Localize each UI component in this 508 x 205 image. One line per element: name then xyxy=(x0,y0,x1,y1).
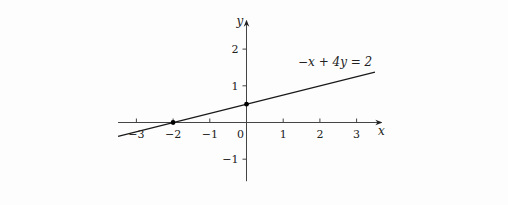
equation-label: −x + 4y = 2 xyxy=(298,55,372,69)
y-tick-label: 1 xyxy=(232,80,239,93)
y-tick-label: −1 xyxy=(222,153,238,166)
x-tick-label: 1 xyxy=(280,128,287,141)
x-tick-label: −3 xyxy=(128,128,144,141)
intercept-point xyxy=(244,102,249,107)
chart-svg: −3−2−10123−112 x y −x + 4y = 2 xyxy=(0,0,508,205)
x-tick-label: 0 xyxy=(237,128,244,141)
x-tick-label: −1 xyxy=(202,128,218,141)
intercept-point xyxy=(171,120,176,125)
x-tick-label: 3 xyxy=(353,128,360,141)
y-axis-label: y xyxy=(236,14,244,28)
chart-figure: −3−2−10123−112 x y −x + 4y = 2 xyxy=(0,0,508,205)
x-axis-label: x xyxy=(378,124,385,138)
x-tick-label: −2 xyxy=(165,128,181,141)
y-tick-label: 2 xyxy=(232,43,239,56)
x-tick-label: 2 xyxy=(316,128,323,141)
